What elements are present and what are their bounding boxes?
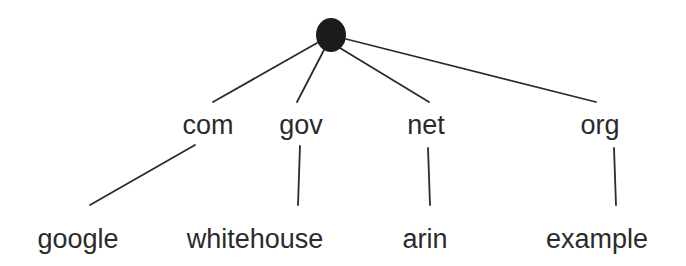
edge-root-gov (297, 50, 324, 102)
root-node (316, 18, 346, 52)
edge-net-arin (428, 148, 430, 205)
domain-label-google: google (37, 226, 118, 253)
edge-org-example (614, 148, 616, 205)
domain-label-arin: arin (402, 226, 447, 253)
tld-label-com: com (182, 112, 233, 139)
edge-gov-whitehouse (298, 146, 300, 205)
edge-root-org (346, 39, 596, 102)
edge-com-google (90, 145, 195, 205)
domain-label-whitehouse: whitehouse (187, 226, 324, 253)
domain-label-example: example (546, 226, 648, 253)
tld-label-net: net (407, 112, 445, 139)
tld-label-gov: gov (279, 112, 323, 139)
tld-label-org: org (580, 112, 619, 139)
